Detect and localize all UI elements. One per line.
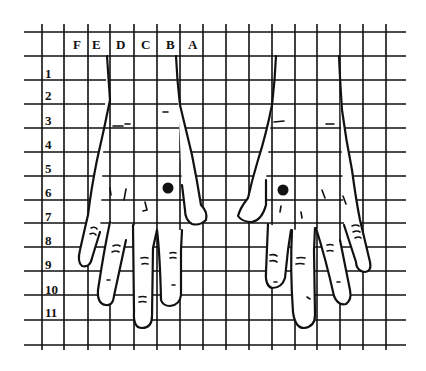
row-label-9: 9 [45, 258, 52, 271]
hand-grid-diagram: F E D C B A 1 2 3 4 5 6 7 8 9 10 11 [0, 0, 426, 371]
row-label-11: 11 [45, 306, 57, 319]
column-label-b: B [166, 38, 175, 51]
left-hand-dot-marker [163, 183, 174, 194]
row-label-2: 2 [45, 89, 52, 102]
row-label-10: 10 [45, 283, 58, 296]
row-label-5: 5 [45, 162, 52, 175]
column-label-a: A [188, 38, 197, 51]
column-label-e: E [92, 38, 101, 51]
row-label-4: 4 [45, 138, 52, 151]
row-label-7: 7 [45, 210, 52, 223]
column-label-c: C [141, 38, 150, 51]
left-hand-outline [79, 56, 207, 328]
row-label-6: 6 [45, 186, 52, 199]
grid-and-hands [0, 0, 426, 371]
right-hand-outline [238, 56, 370, 328]
column-label-f: F [73, 38, 81, 51]
row-label-8: 8 [45, 234, 52, 247]
row-label-1: 1 [45, 67, 52, 80]
column-label-d: D [116, 38, 125, 51]
row-label-3: 3 [45, 114, 52, 127]
right-hand-dot-marker [278, 185, 289, 196]
